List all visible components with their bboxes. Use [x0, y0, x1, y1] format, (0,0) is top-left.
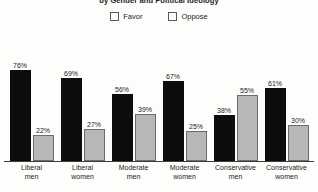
category-label: Moderatemen — [108, 164, 159, 182]
bar-oppose[interactable] — [186, 131, 207, 161]
category-label: Moderatewomen — [159, 164, 210, 182]
bar-wrap: 30% — [288, 30, 309, 161]
bar-favor[interactable] — [163, 81, 184, 161]
bar-chart: by Gender and Political Ideology Favor O… — [0, 0, 318, 192]
bar-value-label: 67% — [166, 73, 180, 80]
bar-favor[interactable] — [61, 78, 82, 161]
bar-wrap: 39% — [135, 30, 156, 161]
bar-wrap: 61% — [265, 30, 286, 161]
bar-oppose[interactable] — [33, 135, 54, 161]
chart-legend: Favor Oppose — [0, 12, 318, 21]
bar-value-label: 55% — [240, 87, 254, 94]
bar-group: 69%27% — [57, 30, 108, 161]
x-axis-line — [4, 161, 314, 162]
bar-wrap: 55% — [237, 30, 258, 161]
bar-wrap: 69% — [61, 30, 82, 161]
bar-value-label: 22% — [36, 127, 50, 134]
category-label: Conservativemen — [210, 164, 261, 182]
bar-wrap: 76% — [10, 30, 31, 161]
bar-wrap: 38% — [214, 30, 235, 161]
bar-oppose[interactable] — [84, 129, 105, 161]
bar-favor[interactable] — [214, 115, 235, 161]
bar-favor[interactable] — [10, 70, 31, 161]
bar-oppose[interactable] — [288, 125, 309, 161]
category-label: Liberalwomen — [57, 164, 108, 182]
legend-item-favor: Favor — [110, 12, 142, 21]
legend-swatch-oppose — [168, 12, 177, 21]
category-label: Conservativewomen — [261, 164, 312, 182]
bar-wrap: 27% — [84, 30, 105, 161]
legend-swatch-favor — [110, 12, 119, 21]
bar-group: 56%39% — [108, 30, 159, 161]
x-axis-labels: LiberalmenLiberalwomenModeratemenModerat… — [6, 164, 312, 182]
bar-value-label: 25% — [189, 123, 203, 130]
bar-oppose[interactable] — [237, 95, 258, 161]
bar-wrap: 56% — [112, 30, 133, 161]
category-label: Liberalmen — [6, 164, 57, 182]
bar-favor[interactable] — [112, 94, 133, 161]
bar-value-label: 76% — [13, 62, 27, 69]
bar-favor[interactable] — [265, 88, 286, 161]
bar-group: 76%22% — [6, 30, 57, 161]
bar-group: 38%55% — [210, 30, 261, 161]
chart-title: by Gender and Political Ideology — [0, 0, 318, 5]
bar-value-label: 39% — [138, 106, 152, 113]
bar-value-label: 38% — [217, 107, 231, 114]
bar-value-label: 30% — [291, 117, 305, 124]
plot-area: 76%22%69%27%56%39%67%25%38%55%61%30% — [6, 30, 312, 161]
bar-value-label: 69% — [64, 70, 78, 77]
bar-value-label: 27% — [87, 121, 101, 128]
bar-group: 67%25% — [159, 30, 210, 161]
bar-wrap: 67% — [163, 30, 184, 161]
bar-group: 61%30% — [261, 30, 312, 161]
bar-value-label: 56% — [115, 86, 129, 93]
bar-wrap: 22% — [33, 30, 54, 161]
bar-oppose[interactable] — [135, 114, 156, 161]
legend-label-favor: Favor — [123, 12, 142, 21]
legend-item-oppose: Oppose — [168, 12, 207, 21]
bar-value-label: 61% — [268, 80, 282, 87]
bar-wrap: 25% — [186, 30, 207, 161]
legend-label-oppose: Oppose — [181, 12, 207, 21]
